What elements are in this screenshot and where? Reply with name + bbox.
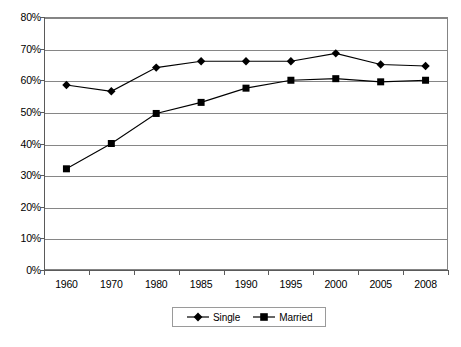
x-tick-label: 1990: [235, 278, 258, 290]
legend-marker-square-icon: [252, 311, 276, 323]
y-tick-mark-30: [40, 175, 44, 176]
x-tick-label: 2005: [369, 278, 392, 290]
x-axis-line: [44, 270, 449, 271]
chart-legend: Single Married: [172, 307, 326, 327]
y-tick-mark-10: [40, 238, 44, 239]
x-tick-label: 1995: [280, 278, 303, 290]
x-tick-label: 2008: [414, 278, 437, 290]
plot-area: [44, 17, 448, 270]
gridline-50: [45, 113, 447, 114]
y-tick-label-20: 20%: [1, 201, 41, 213]
y-tick-label-10: 10%: [1, 232, 41, 244]
x-tick-label: 1960: [55, 278, 78, 290]
y-tick-mark-40: [40, 144, 44, 145]
y-tick-label-40: 40%: [1, 138, 41, 150]
x-tick-label: 1970: [100, 278, 123, 290]
y-tick-mark-50: [40, 112, 44, 113]
legend-label-single: Single: [213, 312, 240, 323]
y-axis-line: [44, 17, 45, 271]
y-tick-label-80: 80%: [1, 11, 41, 23]
line-chart: 80% 70% 60% 50% 40% 30% 20% 10% 0% 19601…: [0, 0, 461, 347]
y-tick-label-50: 50%: [1, 106, 41, 118]
gridline-30: [45, 176, 447, 177]
x-tick-mark: [403, 270, 404, 275]
x-tick-label: 1980: [145, 278, 168, 290]
y-tick-mark-80: [40, 17, 44, 18]
x-tick-mark: [89, 270, 90, 275]
legend-entry-single[interactable]: Single: [186, 311, 240, 323]
x-tick-mark: [313, 270, 314, 275]
y-tick-label-70: 70%: [1, 43, 41, 55]
x-tick-mark: [268, 270, 269, 275]
x-tick-mark: [134, 270, 135, 275]
x-tick-label: 2000: [324, 278, 347, 290]
gridline-60: [45, 81, 447, 82]
y-tick-mark-20: [40, 207, 44, 208]
y-tick-label-0: 0%: [1, 264, 41, 276]
y-tick-label-30: 30%: [1, 169, 41, 181]
gridline-10: [45, 239, 447, 240]
x-tick-mark: [44, 270, 45, 275]
x-tick-label: 1985: [190, 278, 213, 290]
gridline-70: [45, 50, 447, 51]
y-tick-mark-70: [40, 49, 44, 50]
x-tick-mark: [448, 270, 449, 275]
gridline-20: [45, 208, 447, 209]
gridline-80: [45, 18, 447, 19]
y-axis-labels: 80% 70% 60% 50% 40% 30% 20% 10% 0%: [0, 0, 41, 347]
x-tick-mark: [179, 270, 180, 275]
legend-marker-diamond-icon: [186, 311, 210, 323]
legend-entry-married[interactable]: Married: [252, 311, 312, 323]
x-tick-mark: [224, 270, 225, 275]
y-tick-label-60: 60%: [1, 74, 41, 86]
y-tick-mark-60: [40, 80, 44, 81]
gridline-40: [45, 145, 447, 146]
legend-label-married: Married: [279, 312, 312, 323]
x-tick-mark: [358, 270, 359, 275]
